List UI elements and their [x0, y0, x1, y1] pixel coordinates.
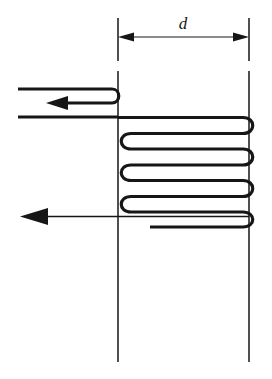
figure-root: d	[0, 0, 272, 379]
dimension-label-d: d	[179, 14, 188, 33]
serpentine-coil-diagram: d	[0, 0, 272, 379]
canvas-background	[0, 0, 272, 379]
